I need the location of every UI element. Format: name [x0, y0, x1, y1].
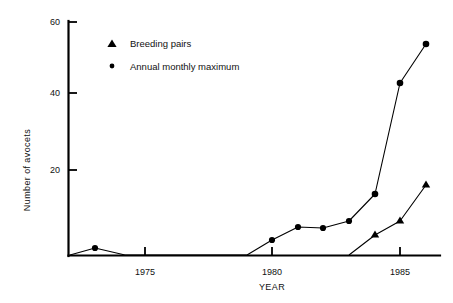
avocet-population-chart: 60 40 20 1975 1980 1985 YEAR Number of a…: [0, 0, 453, 303]
y-tick-label-40: 40: [50, 88, 60, 98]
legend-item-breeding-pairs: Breeding pairs: [107, 38, 191, 49]
series-annual-monthly-maximum: [70, 41, 429, 255]
triangle-marker-icon: [107, 40, 116, 48]
chart-canvas: 60 40 20 1975 1980 1985 YEAR Number of a…: [0, 0, 453, 303]
series-breeding-pairs: [349, 181, 430, 256]
data-point-dot: [423, 41, 430, 48]
data-point-dot: [346, 218, 352, 224]
x-tick-label-1985: 1985: [390, 267, 410, 277]
data-point-dot: [320, 225, 326, 231]
data-point-dot: [397, 80, 404, 87]
data-point-dot: [269, 237, 275, 243]
data-point-dot: [92, 245, 98, 251]
data-point-dot: [372, 191, 379, 198]
x-tick-label-1975: 1975: [135, 267, 155, 277]
data-point-dot: [295, 224, 301, 230]
y-tick-label-60: 60: [50, 17, 60, 27]
x-tick-label-1980: 1980: [262, 267, 282, 277]
data-point-triangle: [371, 231, 379, 238]
breeding-pairs-line: [349, 185, 426, 255]
y-axis-title: Number of avocets: [22, 129, 32, 211]
data-point-triangle: [422, 181, 430, 188]
legend-label-annual-monthly-maximum: Annual monthly maximum: [130, 61, 239, 72]
chart-legend: Breeding pairs Annual monthly maximum: [107, 38, 239, 72]
legend-label-breeding-pairs: Breeding pairs: [130, 38, 192, 49]
x-axis-title: YEAR: [259, 282, 285, 292]
y-tick-label-20: 20: [50, 165, 60, 175]
annual-maximum-line: [70, 44, 426, 255]
legend-item-annual-monthly-maximum: Annual monthly maximum: [110, 61, 240, 72]
dot-marker-icon: [110, 64, 115, 69]
